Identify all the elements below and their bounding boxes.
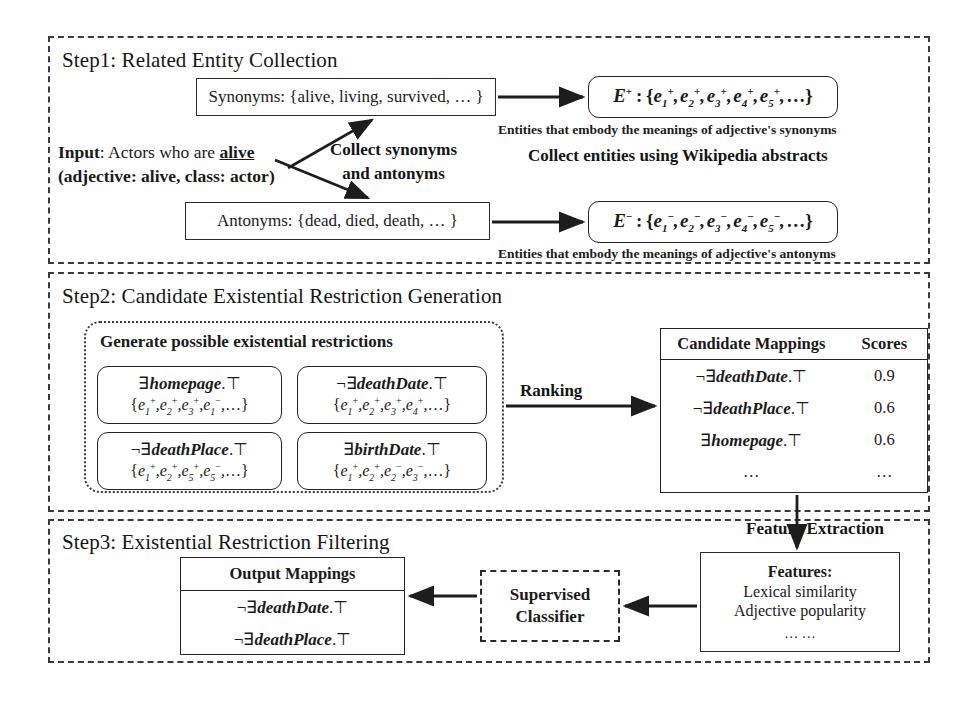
restriction-expression-birthdate: ∃birthDate.⊤ — [343, 439, 440, 460]
step3-title: Step3: Existential Restriction Filtering — [62, 530, 390, 555]
restriction-box-deathplace: ¬∃deathPlace.⊤ {e1+,e2+,e5+,e5−,…} — [97, 432, 282, 490]
e-plus-label: E+ : {e1+, e2+, e3+, e4+, e5+, …} — [613, 85, 813, 109]
collect-synonyms-line1: Collect synonyms — [330, 140, 457, 160]
feature-extraction-label: Feature Extraction — [746, 519, 884, 539]
antonyms-text: Antonyms: {dead, died, death, … } — [217, 211, 458, 231]
features-item: … … — [784, 626, 816, 642]
candidate-table-row: ∃homepage.⊤ 0.6 — [661, 424, 927, 456]
candidate-table-header-scores: Scores — [842, 334, 927, 354]
input-rest: : Actors who are — [100, 142, 220, 162]
classifier-line1: Supervised — [510, 585, 590, 605]
candidate-mapping-cell: ¬∃deathDate.⊤ — [661, 366, 842, 387]
synonyms-box: Synonyms: {alive, living, survived, … } — [196, 78, 496, 116]
restriction-entities-deathplace: {e1+,e2+,e5+,e5−,…} — [130, 461, 248, 483]
restriction-expression-deathplace: ¬∃deathPlace.⊤ — [131, 439, 248, 460]
restriction-box-deathdate: ¬∃deathDate.⊤ {e1+,e2+,e3+,e4+,…} — [297, 366, 487, 424]
restriction-entities-birthdate: {e1+,e2+,e2−,e3−,…} — [333, 461, 451, 483]
caption-antonym-entities: Entities that embody the meanings of adj… — [498, 246, 836, 262]
features-item: Adjective popularity — [734, 602, 866, 620]
figure-canvas: Step1: Related Entity Collection Synonym… — [0, 0, 972, 704]
candidate-score-cell: 0.6 — [842, 430, 927, 450]
step1-title: Step1: Related Entity Collection — [62, 48, 338, 73]
features-item: Lexical similarity — [743, 583, 856, 601]
features-box: Features: Lexical similarity Adjective p… — [700, 552, 900, 652]
candidate-score-cell: … — [842, 462, 927, 482]
candidate-table-header-row: Candidate Mappings Scores — [661, 329, 927, 360]
candidate-table-row: … … — [661, 456, 927, 488]
e-plus-box: E+ : {e1+, e2+, e3+, e4+, e5+, …} — [588, 76, 838, 118]
input-block: Input: Actors who are alive (adjective: … — [58, 142, 275, 187]
candidate-mapping-cell: ∃homepage.⊤ — [661, 430, 842, 451]
output-table-header: Output Mappings — [181, 564, 404, 584]
candidate-table-header-mappings: Candidate Mappings — [661, 334, 842, 354]
collect-synonyms-label: Collect synonyms and antonyms — [330, 140, 457, 184]
restriction-expression-homepage: ∃homepage.⊤ — [138, 373, 240, 394]
input-adjective: alive — [219, 142, 254, 162]
collect-entities-wikipedia-label: Collect entities using Wikipedia abstrac… — [528, 146, 828, 166]
candidate-table-row: ¬∃deathDate.⊤ 0.9 — [661, 360, 927, 392]
input-line-2: (adjective: alive, class: actor) — [58, 166, 275, 187]
classifier-line2: Classifier — [516, 607, 585, 627]
e-minus-symbol: E — [613, 210, 626, 231]
e-plus-symbol: E — [613, 85, 626, 106]
features-title: Features: — [768, 563, 833, 581]
supervised-classifier-box: Supervised Classifier — [480, 570, 620, 642]
caption-synonym-entities: Entities that embody the meanings of adj… — [498, 122, 837, 138]
output-mappings-table: Output Mappings ¬∃deathDate.⊤ ¬∃deathPla… — [180, 557, 405, 655]
candidate-score-cell: 0.6 — [842, 398, 927, 418]
input-line-1: Input: Actors who are alive — [58, 142, 275, 163]
candidate-mapping-cell: ¬∃deathPlace.⊤ — [661, 398, 842, 419]
synonyms-text: Synonyms: {alive, living, survived, … } — [208, 87, 483, 107]
collect-synonyms-line2: and antonyms — [330, 164, 457, 184]
output-mapping-cell: ¬∃deathPlace.⊤ — [181, 629, 404, 650]
e-minus-label: E− : {e1−, e2−, e3−, e4−, e5−, …} — [613, 210, 813, 234]
e-minus-box: E− : {e1−, e2−, e3−, e4−, e5−, …} — [588, 201, 838, 243]
output-table-row: ¬∃deathDate.⊤ — [181, 591, 404, 623]
output-mapping-cell: ¬∃deathDate.⊤ — [181, 597, 404, 618]
candidate-score-cell: 0.9 — [842, 366, 927, 386]
restriction-box-birthdate: ∃birthDate.⊤ {e1+,e2+,e2−,e3−,…} — [297, 432, 487, 490]
candidate-mappings-table: Candidate Mappings Scores ¬∃deathDate.⊤ … — [660, 328, 928, 493]
restriction-box-homepage: ∃homepage.⊤ {e1+,e2+,e3+,e1−,…} — [97, 366, 282, 424]
generate-restrictions-label: Generate possible existential restrictio… — [100, 332, 393, 352]
input-label: Input — [58, 142, 100, 162]
restriction-expression-deathdate: ¬∃deathDate.⊤ — [336, 373, 448, 394]
candidate-table-row: ¬∃deathPlace.⊤ 0.6 — [661, 392, 927, 424]
candidate-mapping-cell: … — [661, 462, 842, 482]
step2-title: Step2: Candidate Existential Restriction… — [62, 284, 502, 309]
ranking-label: Ranking — [520, 381, 582, 401]
output-table-header-row: Output Mappings — [181, 558, 404, 591]
antonyms-box: Antonyms: {dead, died, death, … } — [185, 202, 490, 240]
restriction-entities-deathdate: {e1+,e2+,e3+,e4+,…} — [333, 395, 451, 417]
output-table-row: ¬∃deathPlace.⊤ — [181, 623, 404, 655]
restriction-entities-homepage: {e1+,e2+,e3+,e1−,…} — [130, 395, 248, 417]
